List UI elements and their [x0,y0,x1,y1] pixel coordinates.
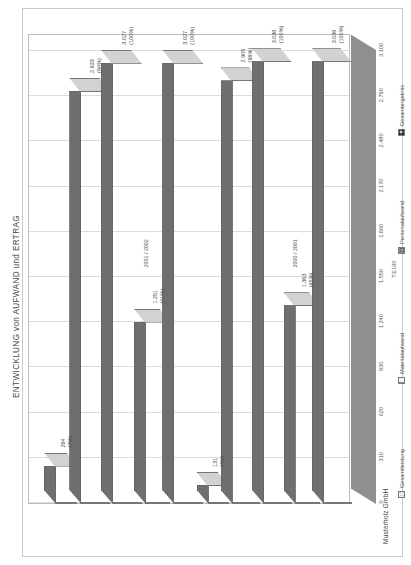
bar-front-face [80,502,110,504]
bar-front-face [55,502,77,504]
legend-swatch-icon [398,377,405,384]
chart-canvas: Musterholz GmbH ENTWICKLUNG von AUFWAND … [0,1,411,550]
legend-swatch-icon [398,491,405,498]
bar-top-face [221,80,233,504]
bar-front-face [145,502,170,504]
group-label-2000-2001: 2000 / 2001 [292,239,298,267]
axis-title-teur: TEUR [391,260,397,277]
legend-swatch-icon [398,247,405,254]
axis-tick-label: 2.790 [378,88,384,102]
chart-legend: GesamtleistungMaterialaufwandPersonalauf… [398,34,411,504]
data-label-personalaufwand: 2.905(96%) [240,48,254,63]
axis-tick-label: 1.550 [378,269,384,283]
data-label-materialaufwand: 1.251(41%) [152,289,166,304]
bar-front-face [323,502,351,504]
data-label-gesamtleistung: 3.027(100%) [121,27,135,45]
bar-front-face [208,502,229,504]
axis-tick-label: 0 [378,500,384,503]
data-label-gesamtleistung: 3.027(100%) [182,27,196,45]
legend-label: Gesamtergebnis [399,85,405,126]
axis-tick-label: 310 [378,452,384,461]
bar-top-face [162,63,174,504]
axis-tick-label: 930 [378,362,384,371]
axis-tick-label: 2.170 [378,179,384,193]
data-label-gesamtleistung: 3.036(100%) [271,26,285,44]
axis-tick-label: 620 [378,407,384,416]
bar-front-face [232,502,260,504]
data-label-gesamtergebnis: 264(7%) [60,436,74,448]
group-label-2001-2002: 2001 / 2002 [143,239,149,267]
bar-top-face [284,305,296,504]
legend-swatch-icon [398,129,405,136]
bar-top-face [252,61,264,504]
data-label-gesamtleistung: 3.036(100%) [331,26,345,44]
axis-tick-label: 3.100 [378,43,384,57]
bar-front-face [173,502,203,504]
bar-front-face [263,502,291,504]
data-label-materialaufwand: 1.363(45%) [301,273,315,288]
legend-item-personalaufwand[interactable]: Personalaufwand [398,201,405,254]
legend-item-materialaufwand[interactable]: Materialaufwand [398,333,405,384]
legend-label: Personalaufwand [399,201,405,244]
bar-top-face [101,63,113,504]
bar-front-face [295,502,320,504]
axis-tick-label: 1.240 [378,314,384,328]
legend-item-gesamtleistung[interactable]: Gesamtleistung [398,449,405,498]
data-label-personalaufwand: 2.833(94%) [89,58,103,73]
chart-floor [350,34,376,504]
axis-tick-label: 1.860 [378,224,384,238]
legend-item-gesamtergebnis[interactable]: Gesamtergebnis [398,85,405,136]
bar-front-face [112,502,142,504]
axis-tick-label: 2.480 [378,133,384,147]
data-label-gesamtergebnis: 131(4%) [212,455,226,467]
legend-label: Materialaufwand [399,333,405,374]
chart-page: Musterholz GmbH ENTWICKLUNG von AUFWAND … [0,0,411,565]
bar-gesamtleistung[interactable] [323,61,351,504]
legend-label: Gesamtleistung [399,449,405,488]
bar-gesamtleistung[interactable] [173,63,203,504]
chart-title: ENTWICKLUNG von AUFWAND und ERTRAG [12,215,21,398]
bar-top-face [134,322,146,504]
